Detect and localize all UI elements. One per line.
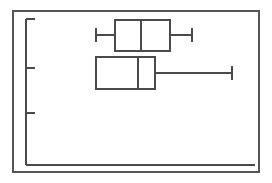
box-plot-figure: [0, 0, 272, 183]
chart-canvas: [0, 0, 272, 183]
figure-background: [0, 0, 272, 183]
